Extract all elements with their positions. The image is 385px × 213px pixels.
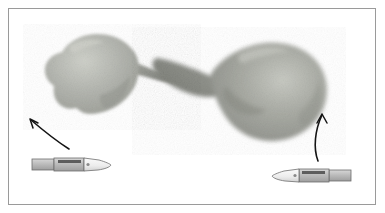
figure-panel: Two excised tissue specimens with curved… — [0, 0, 385, 213]
scalpel-left — [32, 158, 111, 171]
scalpel-svg — [0, 0, 385, 213]
scalpel-right — [272, 169, 351, 182]
scalpel-layer — [0, 0, 385, 213]
